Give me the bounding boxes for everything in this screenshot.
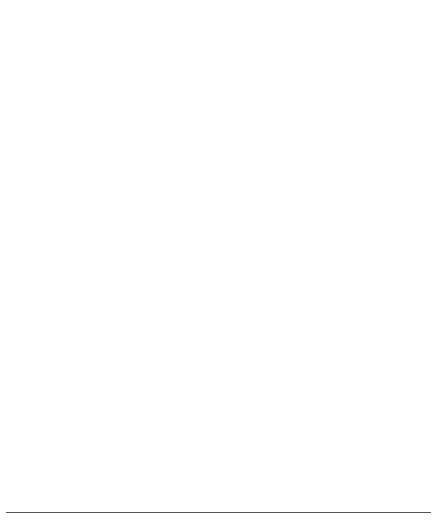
figure-page [0,0,437,527]
chart-top-svg [0,0,437,264]
chart-top-container [0,0,437,264]
chart-bottom-svg [0,264,437,514]
footer-rule [6,512,431,513]
chart-bottom-container [0,264,437,514]
